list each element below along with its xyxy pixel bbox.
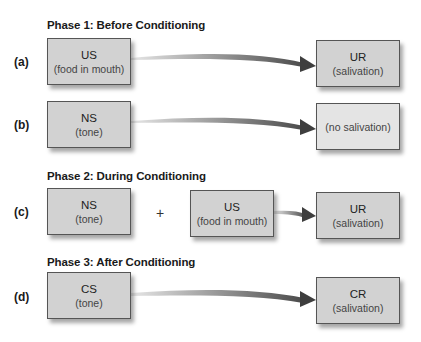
box-desc: (food in mouth) — [197, 214, 268, 228]
box-abbr: UR — [350, 202, 367, 216]
stimulus-box-ns: NS (tone) — [47, 101, 131, 148]
response-box-ur: UR (salivation) — [316, 40, 400, 87]
box-abbr: CR — [350, 287, 367, 301]
box-desc: (tone) — [75, 212, 102, 226]
stimulus-box-us: US (food in mouth) — [47, 38, 131, 85]
phase-2-title: Phase 2: During Conditioning — [47, 170, 206, 182]
row-label-b: (b) — [14, 118, 29, 132]
box-abbr: NS — [81, 198, 97, 212]
box-desc: (tone) — [75, 296, 102, 310]
phase-1-title: Phase 1: Before Conditioning — [47, 19, 205, 31]
response-box-cr: CR (salivation) — [316, 277, 400, 324]
arrow-c — [274, 207, 316, 222]
box-abbr: UR — [350, 50, 367, 64]
box-desc: (food in mouth) — [54, 62, 125, 76]
phase-3-title: Phase 3: After Conditioning — [47, 256, 195, 268]
arrow-a — [131, 54, 316, 72]
box-desc: (salivation) — [333, 301, 384, 315]
stimulus-box-cs: CS (tone) — [47, 272, 131, 319]
box-abbr: US — [224, 200, 240, 214]
arrow-b — [131, 118, 316, 135]
response-box-no-salivation: (no salivation) — [316, 103, 400, 150]
row-label-d: (d) — [14, 290, 29, 304]
box-desc: (salivation) — [333, 216, 384, 230]
arrow-d — [131, 290, 316, 307]
stimulus-box-ns: NS (tone) — [47, 188, 131, 235]
row-label-a: (a) — [14, 55, 29, 69]
box-abbr: CS — [81, 282, 97, 296]
box-desc: (no salivation) — [325, 120, 390, 134]
box-desc: (tone) — [75, 125, 102, 139]
box-desc: (salivation) — [333, 64, 384, 78]
box-abbr: US — [81, 48, 97, 62]
stimulus-box-us: US (food in mouth) — [190, 190, 274, 237]
response-box-ur: UR (salivation) — [316, 192, 400, 239]
row-label-c: (c) — [14, 205, 29, 219]
plus-operator: + — [156, 205, 164, 221]
box-abbr: NS — [81, 111, 97, 125]
